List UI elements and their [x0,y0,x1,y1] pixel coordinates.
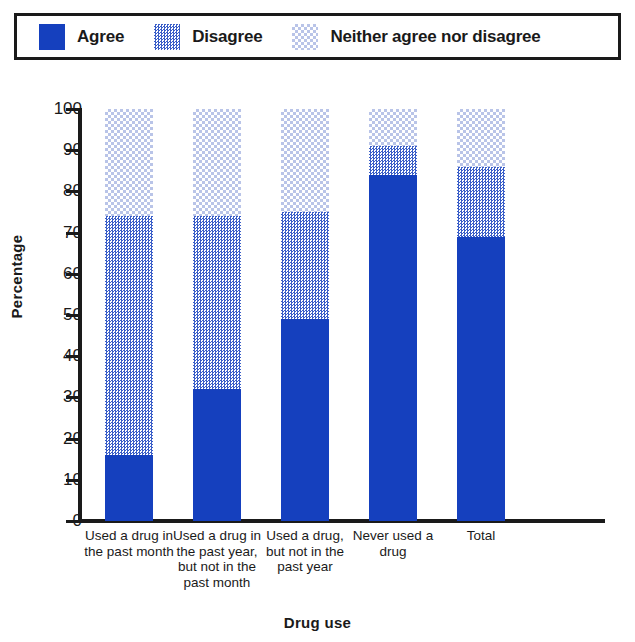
stacked-bar-chart: Percentage Drug use 01020304050607080901… [0,0,635,642]
y-axis-tick-label: 20 [38,430,82,447]
y-axis-tick-label: 60 [38,265,82,282]
bar-segment-disagree [193,216,241,389]
bar-segment-agree [369,175,417,521]
x-axis-category-label: Used a drug inthe past year,but not in t… [170,528,264,590]
bar-segment-neither [193,109,241,216]
y-axis-tick-label: 0 [38,512,82,529]
category-label-line: Used a drug in [82,528,176,544]
y-axis-tick-label: 80 [38,182,82,199]
bar-segment-neither [281,109,329,212]
y-axis-tick-label: 10 [38,471,82,488]
y-axis-tick-label: 50 [38,306,82,323]
bar-segment-neither [369,109,417,146]
bar-segment-disagree [105,216,153,455]
y-axis-title: Percentage [8,217,25,337]
bar-1 [105,109,153,521]
bar-segment-disagree [369,146,417,175]
x-axis-category-label: Total [434,528,528,544]
category-label-line: Used a drug, [258,528,352,544]
bar-segment-agree [457,237,505,521]
bar-segment-agree [193,389,241,521]
category-label-line: Used a drug in [170,528,264,544]
bar-segment-disagree [457,167,505,237]
x-axis-title: Drug use [0,614,635,631]
y-axis-tick-label: 30 [38,388,82,405]
y-axis-tick-label: 90 [38,141,82,158]
y-axis-tick-label: 100 [38,100,82,117]
bar-3 [281,109,329,521]
bars-container [78,109,605,521]
bar-segment-neither [457,109,505,167]
bar-4 [369,109,417,521]
x-axis-category-label: Never used adrug [346,528,440,559]
category-label-line: the past year, [170,544,264,560]
category-label-line: the past month [82,544,176,560]
y-axis-tick-label: 40 [38,347,82,364]
category-label-line: drug [346,544,440,560]
bar-5 [457,109,505,521]
bar-segment-neither [105,109,153,216]
category-label-line: but not in the [258,544,352,560]
x-axis-category-label: Used a drug inthe past month [82,528,176,559]
bar-segment-disagree [281,212,329,319]
category-label-line: Total [434,528,528,544]
category-label-line: past year [258,559,352,575]
category-label-line: but not in the [170,559,264,575]
x-axis-category-label: Used a drug,but not in thepast year [258,528,352,575]
bar-segment-agree [105,455,153,521]
category-label-line: past month [170,575,264,591]
bar-segment-agree [281,319,329,521]
bar-2 [193,109,241,521]
y-axis-tick-label: 70 [38,224,82,241]
category-label-line: Never used a [346,528,440,544]
